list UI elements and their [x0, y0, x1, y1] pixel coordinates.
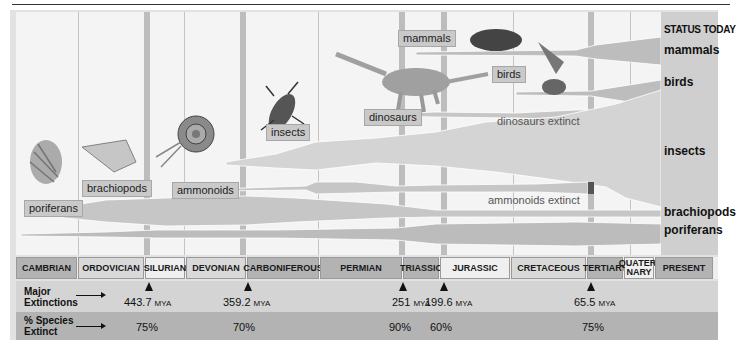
status-birds: birds: [664, 75, 693, 89]
percent-extinct: 75%: [136, 321, 158, 333]
tag-insects: insects: [266, 124, 310, 141]
period-jurassic: JURASSIC: [440, 257, 510, 279]
dinosaur-illustration: [336, 54, 488, 112]
status-mammals: mammals: [664, 43, 719, 57]
tag-mammals: mammals: [398, 30, 456, 47]
status-insects: insects: [664, 144, 705, 158]
brachiopod-illustration: [82, 140, 136, 172]
status-today-heading: STATUS TODAY: [664, 24, 736, 35]
percent-extinct: 70%: [233, 321, 255, 333]
period-quaternary: QUATER-NARY: [624, 257, 654, 279]
percent-extinct: 60%: [430, 321, 452, 333]
species-extinct-label: % Species Extinct: [24, 315, 78, 337]
period-devonian: DEVONIAN: [186, 257, 246, 279]
period-permian: PERMIAN: [320, 257, 402, 279]
tag-ammonoids: ammonoids: [172, 182, 239, 199]
tag-poriferans: poriferans: [24, 200, 83, 217]
arrow-icon: [76, 295, 104, 296]
period-tertiary: TERTIARY: [587, 257, 623, 279]
major-extinctions-label: Major Extinctions: [24, 286, 78, 308]
species-extinct-row: % Species Extinct 75% 70% 90% 60% 75%: [16, 312, 718, 340]
period-silurian: SILURIAN: [145, 257, 185, 279]
triangle-marker-icon: [244, 282, 252, 291]
tag-brachiopods: brachiopods: [82, 180, 152, 197]
percent-extinct: 90%: [389, 321, 411, 333]
period-cambrian: CAMBRIAN: [16, 257, 77, 279]
label-ammonoids-extinct: ammonoids extinct: [488, 194, 580, 206]
triangle-marker-icon: [145, 282, 153, 291]
period-cretaceous: CRETACEOUS: [511, 257, 586, 279]
status-brachiopods: brachiopods: [664, 205, 736, 219]
period-ordovician: ORDOVICIAN: [78, 257, 144, 279]
triangle-marker-icon: [587, 282, 595, 291]
period-triassic: TRIASSIC: [403, 257, 439, 279]
triangle-marker-icon: [399, 282, 407, 291]
geologic-periods-bar: CAMBRIAN ORDOVICIAN SILURIAN DEVONIAN CA…: [16, 257, 718, 279]
arrow-icon: [76, 326, 104, 327]
tag-dinosaurs: dinosaurs: [364, 109, 422, 126]
label-dinosaurs-extinct: dinosaurs extinct: [497, 115, 580, 127]
status-poriferans: poriferans: [664, 223, 723, 237]
percent-extinct: 75%: [582, 321, 604, 333]
top-rule: [12, 4, 730, 5]
mammal-illustration: [470, 29, 522, 51]
major-extinctions-row: Major Extinctions 443.7 MYA 359.2 MYA 25…: [16, 281, 718, 312]
diversity-lanes: [16, 12, 661, 255]
period-carboniferous: CARBONIFEROUS: [247, 257, 319, 279]
diversity-plot: poriferans brachiopods ammonoids insects…: [16, 12, 661, 255]
triangle-marker-icon: [440, 282, 448, 291]
ammonoid-illustration: [156, 116, 214, 167]
poriferan-illustration: [30, 140, 62, 184]
tag-birds: birds: [492, 66, 526, 83]
period-present: PRESENT: [655, 257, 713, 279]
